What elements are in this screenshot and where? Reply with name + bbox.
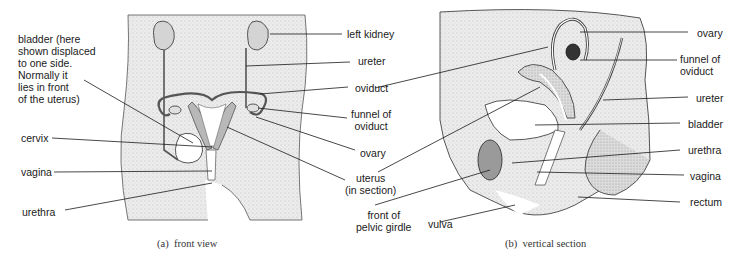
- label-bladder-front: bladder (here shown displaced to one sid…: [18, 33, 96, 105]
- vertical-section-figure: [440, 10, 650, 215]
- label-oviduct: oviduct: [355, 82, 388, 94]
- label-uterus: uterus (in section): [345, 172, 396, 196]
- label-vulva: vulva: [428, 218, 453, 230]
- label-ureter-section: ureter: [696, 92, 723, 104]
- label-ovary-front: ovary: [360, 147, 386, 159]
- front-view-figure: [121, 15, 307, 222]
- label-urethra-front: urethra: [22, 206, 55, 218]
- label-bladder-section: bladder: [688, 118, 723, 130]
- caption-front-view: (a) front view: [157, 238, 217, 249]
- label-urethra-section: urethra: [688, 144, 721, 156]
- label-funnel-of-oviduct-front: funnel of oviduct: [351, 108, 391, 132]
- label-rectum: rectum: [690, 196, 722, 208]
- label-ovary-section: ovary: [697, 27, 723, 39]
- label-vagina-front: vagina: [21, 166, 52, 178]
- label-front-of-pelvic-girdle: front of pelvic girdle: [356, 209, 411, 233]
- label-cervix: cervix: [21, 132, 48, 144]
- label-funnel-of-oviduct-section: funnel of oviduct: [680, 53, 720, 77]
- label-ureter-front: ureter: [358, 55, 385, 67]
- label-left-kidney: left kidney: [347, 28, 394, 40]
- caption-vertical-section: (b) vertical section: [505, 238, 586, 249]
- label-vagina-section: vagina: [690, 170, 721, 182]
